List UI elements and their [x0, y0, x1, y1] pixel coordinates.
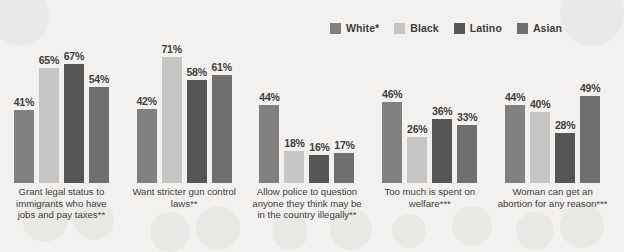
bar[interactable] — [187, 80, 207, 183]
bar[interactable] — [259, 105, 279, 183]
bar[interactable] — [89, 87, 109, 183]
bar-group: 44%18%16%17% — [246, 0, 369, 183]
bar[interactable] — [530, 112, 550, 183]
bar-value-label: 65% — [39, 54, 59, 66]
category-label: Too much is spent on welfare*** — [368, 186, 491, 241]
category-axis-labels: Grant legal status to immigrants who hav… — [0, 186, 614, 241]
bar[interactable] — [64, 64, 84, 183]
bar[interactable] — [580, 96, 600, 183]
bar[interactable] — [137, 109, 157, 183]
bar-value-label: 54% — [89, 73, 109, 85]
bar[interactable] — [505, 105, 525, 183]
bar-value-label: 49% — [580, 82, 600, 94]
bar-value-label: 46% — [382, 88, 402, 100]
bar-group: 44%40%28%49% — [491, 0, 614, 183]
bar-item[interactable]: 28% — [555, 0, 575, 183]
bar-item[interactable]: 41% — [14, 0, 34, 183]
bar-group: 46%26%36%33% — [368, 0, 491, 183]
bar-item[interactable]: 49% — [580, 0, 600, 183]
bar-item[interactable]: 42% — [137, 0, 157, 183]
category-label: Grant legal status to immigrants who hav… — [0, 186, 123, 241]
bar-value-label: 44% — [259, 91, 279, 103]
bar-group: 41%65%67%54% — [0, 0, 123, 183]
bar[interactable] — [14, 110, 34, 183]
bar[interactable] — [212, 75, 232, 183]
bar-item[interactable]: 46% — [382, 0, 402, 183]
bar-item[interactable]: 26% — [407, 0, 427, 183]
bar-value-label: 17% — [334, 139, 354, 151]
bar-value-label: 44% — [505, 91, 525, 103]
bar-value-label: 42% — [136, 95, 156, 107]
bar-value-label: 40% — [530, 98, 550, 110]
bar-item[interactable]: 44% — [259, 0, 279, 183]
bar-item[interactable]: 44% — [505, 0, 525, 183]
bar-value-label: 67% — [64, 50, 84, 62]
bar[interactable] — [382, 102, 402, 183]
bar[interactable] — [39, 68, 59, 183]
bar[interactable] — [407, 137, 427, 183]
bar-value-label: 18% — [284, 137, 304, 149]
bar-item[interactable]: 61% — [212, 0, 232, 183]
bar-value-label: 58% — [186, 66, 206, 78]
category-label: Woman can get an abortion for any reason… — [491, 186, 614, 241]
bar-item[interactable]: 40% — [530, 0, 550, 183]
bar-value-label: 28% — [555, 119, 575, 131]
bar-value-label: 33% — [457, 111, 477, 123]
bar[interactable] — [162, 57, 182, 183]
bar-item[interactable]: 17% — [334, 0, 354, 183]
bar[interactable] — [334, 153, 354, 183]
bar-item[interactable]: 18% — [284, 0, 304, 183]
bar-item[interactable]: 65% — [39, 0, 59, 183]
bar-item[interactable]: 67% — [64, 0, 84, 183]
bar-item[interactable]: 54% — [89, 0, 109, 183]
bar-group: 42%71%58%61% — [123, 0, 246, 183]
bar-item[interactable]: 58% — [187, 0, 207, 183]
bar-value-label: 26% — [407, 123, 427, 135]
bar[interactable] — [432, 119, 452, 183]
bar-item[interactable]: 36% — [432, 0, 452, 183]
bar-item[interactable]: 71% — [162, 0, 182, 183]
category-label: Want stricter gun control laws** — [123, 186, 246, 241]
bar[interactable] — [555, 133, 575, 183]
bar-value-label: 41% — [14, 96, 34, 108]
bar-item[interactable]: 33% — [457, 0, 477, 183]
category-label: Allow police to question anyone they thi… — [246, 186, 369, 241]
bar-value-label: 36% — [432, 105, 452, 117]
bar[interactable] — [457, 125, 477, 183]
plot-area: 41%65%67%54%42%71%58%61%44%18%16%17%46%2… — [0, 0, 614, 183]
bar[interactable] — [284, 151, 304, 183]
bar-value-label: 16% — [309, 141, 329, 153]
bar-item[interactable]: 16% — [309, 0, 329, 183]
bar[interactable] — [309, 155, 329, 183]
bar-value-label: 61% — [211, 61, 231, 73]
bar-value-label: 71% — [161, 43, 181, 55]
